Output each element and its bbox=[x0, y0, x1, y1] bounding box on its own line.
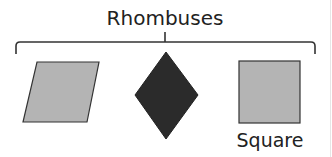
square-shape bbox=[239, 61, 300, 123]
rhombus-diagram: Rhombuses Square bbox=[0, 0, 332, 157]
diamond-rhombus-shape bbox=[135, 52, 198, 139]
square-label: Square bbox=[237, 129, 304, 151]
grouping-bracket bbox=[16, 32, 315, 54]
diagram-title: Rhombuses bbox=[107, 6, 224, 30]
slanted-rhombus-shape bbox=[23, 62, 99, 122]
